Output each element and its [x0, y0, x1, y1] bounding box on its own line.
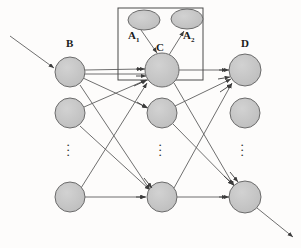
edge-b1-c1: [85, 69, 142, 70]
output-arrow: [257, 208, 293, 237]
c-node-1[interactable]: [145, 53, 179, 87]
network-diagram-svg: [0, 0, 301, 248]
label-a2: A2: [183, 30, 194, 44]
label-b: B: [66, 38, 73, 49]
edge-c2-d1: [175, 79, 231, 106]
d-node-1[interactable]: [229, 54, 261, 86]
diagram-canvas: A1 A2 B C D · · · · · · · · ·: [0, 0, 301, 248]
b-node-2[interactable]: [55, 98, 85, 128]
arrowhead-overlay-group: [134, 69, 238, 197]
b-node-3[interactable]: [55, 182, 85, 212]
d-node-2[interactable]: [230, 98, 260, 128]
label-d: D: [241, 38, 249, 49]
column-c-dots: · · ·: [158, 143, 162, 158]
b-node-1[interactable]: [55, 57, 85, 87]
input-arrow: [10, 36, 54, 68]
a2-node[interactable]: [171, 9, 203, 29]
arrowhead-into-d1-b: [218, 77, 230, 79]
column-b-dots: · · ·: [66, 143, 70, 158]
arrowhead-into-c2-a: [137, 102, 147, 108]
label-c: C: [156, 42, 164, 53]
arrowhead-into-d1-c: [220, 84, 232, 92]
edge-b1-c3: [80, 85, 150, 190]
edge-a1-c1: [141, 30, 157, 53]
column-d-dots: · · ·: [240, 143, 244, 158]
c-node-3[interactable]: [147, 182, 177, 212]
label-a1: A1: [128, 30, 139, 44]
d-node-3[interactable]: [229, 181, 261, 213]
a1-node[interactable]: [128, 10, 160, 30]
edge-c1-a2: [169, 31, 184, 55]
edge-b2-c3: [80, 126, 150, 190]
arrowhead-into-c1-c: [134, 80, 147, 86]
c-node-2[interactable]: [147, 98, 177, 128]
